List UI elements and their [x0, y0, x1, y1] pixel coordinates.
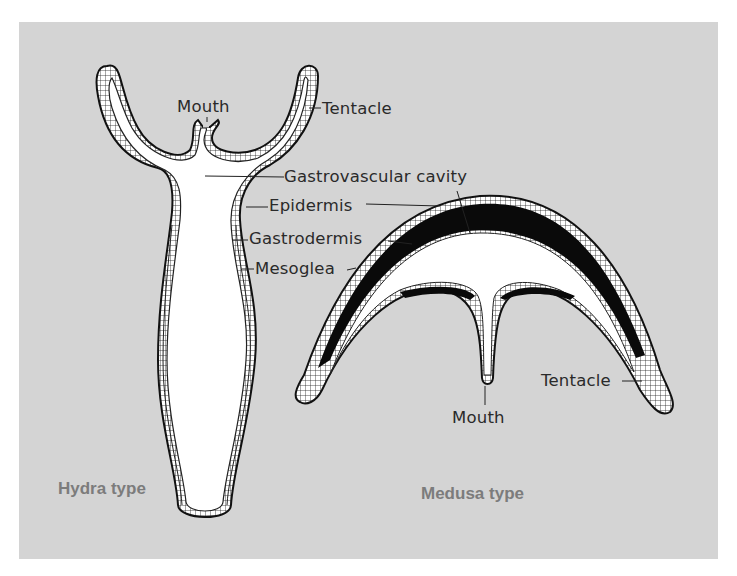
- gastrodermis-label: Gastrodermis: [249, 229, 362, 248]
- medusa-type-title: Medusa type: [421, 484, 524, 504]
- hydra-type-title: Hydra type: [58, 479, 146, 499]
- gastrovascular-cavity-label: Gastrovascular cavity: [284, 167, 467, 186]
- medusa-diagram: [296, 191, 673, 413]
- mesoglea-label: Mesoglea: [255, 259, 335, 278]
- epidermis-label: Epidermis: [269, 196, 353, 215]
- hydra-diagram: [97, 66, 321, 517]
- medusa-mouth-label: Mouth: [452, 408, 505, 427]
- medusa-tentacle-label: Tentacle: [541, 371, 611, 390]
- hydra-tentacle-label: Tentacle: [322, 99, 392, 118]
- hydra-mouth-label: Mouth: [177, 97, 230, 116]
